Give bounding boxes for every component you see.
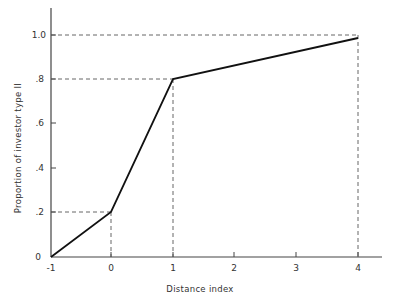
x-tick-label: -1 xyxy=(47,263,56,273)
x-tick-label: 2 xyxy=(231,263,237,273)
y-tick-label: 1.0 xyxy=(32,30,47,40)
y-tick-label: .2 xyxy=(35,207,44,217)
y-tick-label: 0 xyxy=(35,252,41,262)
reference-lines xyxy=(51,35,358,257)
y-axis-title: Proportion of investor type II xyxy=(13,83,23,213)
x-ticks xyxy=(111,252,358,257)
x-tick-label: 3 xyxy=(293,263,299,273)
x-tick-label: 0 xyxy=(108,263,114,273)
x-tick-label: 4 xyxy=(355,263,361,273)
y-tick-label: .6 xyxy=(35,118,44,128)
x-axis-title: Distance index xyxy=(166,284,233,294)
x-tick-label: 1 xyxy=(170,263,176,273)
y-tick-label: .8 xyxy=(35,74,44,84)
y-ticks xyxy=(51,35,56,212)
data-line xyxy=(51,38,358,257)
y-tick-label: .4 xyxy=(35,163,44,173)
chart: 0 .2 .4 .6 .8 1.0 -1 0 1 2 3 4 Distance … xyxy=(0,0,396,298)
